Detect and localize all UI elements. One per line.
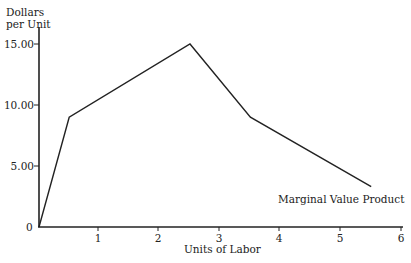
- x-tick-6: 6: [393, 232, 409, 244]
- y-tick-5: 5.00: [0, 160, 34, 172]
- x-tick-1: 1: [90, 232, 106, 244]
- y-axis-label-line-2: per Unit: [6, 18, 44, 30]
- y-tick-0: 0: [26, 221, 33, 233]
- x-tick-4: 4: [271, 232, 287, 244]
- y-tick-15: 15.00: [0, 38, 34, 50]
- chart-canvas: [0, 0, 411, 263]
- x-tick-5: 5: [332, 232, 348, 244]
- x-axis-label: Units of Labor: [184, 243, 261, 255]
- series-label: Marginal Value Product: [278, 193, 404, 205]
- y-tick-10: 10.00: [0, 99, 34, 111]
- y-axis-label: Dollars per Unit: [6, 6, 44, 30]
- x-tick-2: 2: [150, 232, 166, 244]
- y-axis-label-line-1: Dollars: [6, 6, 44, 18]
